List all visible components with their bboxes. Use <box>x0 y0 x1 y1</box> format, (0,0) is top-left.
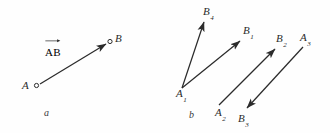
label-point-b-A3-base: A <box>300 31 307 43</box>
vector-diagram-figure: A B AB a A1 A2 A3 B1 B2 B3 B4 b <box>0 0 330 133</box>
label-point-b-B3-base: B <box>238 112 245 124</box>
label-point-a-A: A <box>22 80 29 91</box>
vector-A1B4-line <box>182 22 204 88</box>
label-point-b-B1: B1 <box>243 25 253 39</box>
vector-overbar-arrow-icon <box>45 38 61 43</box>
panel-label-a: a <box>44 108 49 118</box>
label-point-b-B4-sub: 4 <box>210 14 214 22</box>
vector-A3B3-line <box>247 47 303 108</box>
label-point-a-B: B <box>115 33 122 44</box>
label-point-b-A1-base: A <box>176 87 183 99</box>
label-point-b-B1-base: B <box>243 24 250 36</box>
vector-A1B1-line <box>182 41 240 88</box>
label-point-b-B2: B2 <box>276 33 286 47</box>
panel-label-b: b <box>189 110 194 120</box>
label-vector-AB-text: AB <box>45 46 61 58</box>
label-point-b-B4: B4 <box>203 6 213 20</box>
label-point-b-A2-base: A <box>215 106 222 118</box>
label-point-b-A3-sub: 3 <box>307 40 311 48</box>
diagram-canvas <box>0 0 330 133</box>
label-point-b-B2-base: B <box>276 32 283 44</box>
label-point-b-B3: B3 <box>238 113 248 127</box>
vector-A2B2-line <box>219 49 275 105</box>
label-point-b-B3-sub: 3 <box>245 121 249 129</box>
label-point-b-B4-base: B <box>203 5 210 17</box>
label-point-b-A3: A3 <box>300 32 310 46</box>
label-point-b-A1: A1 <box>176 88 186 102</box>
label-vector-AB: AB <box>45 42 61 60</box>
point-B-marker <box>108 39 112 43</box>
label-point-b-A1-sub: 1 <box>183 96 187 104</box>
point-A-marker <box>34 83 38 87</box>
label-point-b-A2-sub: 2 <box>222 115 226 123</box>
label-point-b-A2: A2 <box>215 107 225 121</box>
label-point-b-B1-sub: 1 <box>250 33 254 41</box>
label-point-b-B2-sub: 2 <box>283 41 287 49</box>
